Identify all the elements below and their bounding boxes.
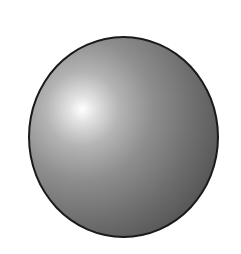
shaded-sphere bbox=[28, 36, 219, 238]
